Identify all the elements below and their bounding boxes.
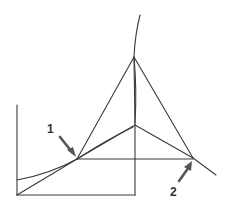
line-mid-to-2: [135, 125, 193, 158]
line-2-extension: [193, 158, 216, 175]
label-point-2: 2: [170, 185, 177, 199]
geometry-diagram: 1 2: [0, 0, 233, 209]
arrow-2: [179, 161, 192, 181]
arrow-1: [60, 137, 76, 157]
diagonal-line-to-point-1: [17, 159, 77, 195]
top-curve: [134, 15, 140, 57]
line-apex-to-2: [134, 57, 193, 158]
line-1-to-apex: [77, 57, 134, 159]
label-point-1: 1: [47, 122, 54, 136]
